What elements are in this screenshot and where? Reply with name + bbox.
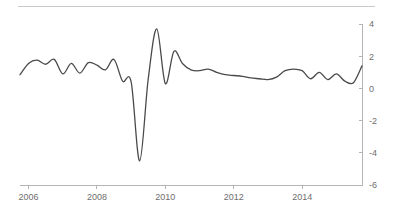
y-axis: 420-2-4-6 — [359, 19, 378, 190]
y-tick-label: 4 — [369, 19, 374, 29]
y-tick-label: -6 — [369, 180, 377, 190]
series-line-series-1 — [20, 29, 362, 161]
plot-area: 420-2-4-6 20062008201020122014 — [0, 0, 393, 216]
chart-figure: 420-2-4-6 20062008201020122014 — [0, 0, 393, 216]
x-tick-label: 2010 — [155, 192, 175, 202]
y-tick-label: -2 — [369, 116, 377, 126]
x-tick-label: 2012 — [224, 192, 244, 202]
x-tick-label: 2014 — [292, 192, 312, 202]
x-tick-label: 2008 — [87, 192, 107, 202]
x-axis: 20062008201020122014 — [19, 186, 363, 203]
y-tick-label: 0 — [369, 84, 374, 94]
y-tick-label: 2 — [369, 52, 374, 62]
x-tick-label: 2006 — [19, 192, 39, 202]
y-tick-label: -4 — [369, 148, 377, 158]
line-chart-svg: 420-2-4-6 20062008201020122014 — [0, 0, 393, 216]
data-series — [20, 29, 362, 161]
